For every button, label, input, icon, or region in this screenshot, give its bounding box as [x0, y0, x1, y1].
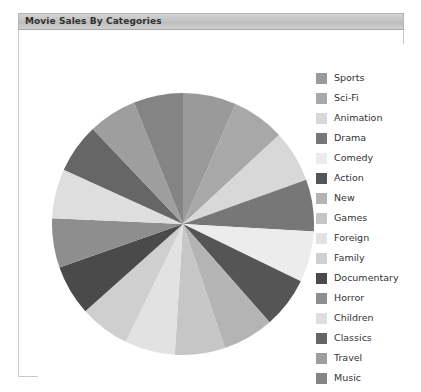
legend-item-label: Drama	[334, 133, 366, 143]
legend-item-label: Classics	[334, 333, 372, 343]
legend-item-label: Animation	[334, 113, 382, 123]
legend-item[interactable]: Sci-Fi	[316, 88, 421, 108]
legend-item-label: Travel	[334, 353, 362, 363]
legend-swatch-icon	[316, 73, 327, 84]
legend-item-label: Games	[334, 213, 367, 223]
legend-item[interactable]: Music	[316, 368, 421, 388]
legend-item-label: Family	[334, 253, 365, 263]
legend-swatch-icon	[316, 273, 327, 284]
legend-item[interactable]: Classics	[316, 328, 421, 348]
pie-chart-svg	[52, 88, 314, 360]
plot-area: SportsSci-FiAnimationDramaComedyActionNe…	[38, 44, 421, 389]
legend-item-label: Comedy	[334, 153, 373, 163]
legend-swatch-icon	[316, 233, 327, 244]
legend-item-label: Sports	[334, 73, 364, 83]
legend-swatch-icon	[316, 333, 327, 344]
legend-item[interactable]: Comedy	[316, 148, 421, 168]
legend-swatch-icon	[316, 193, 327, 204]
legend-item[interactable]: Children	[316, 308, 421, 328]
legend-swatch-icon	[316, 133, 327, 144]
legend-item[interactable]: New	[316, 188, 421, 208]
legend-swatch-icon	[316, 293, 327, 304]
legend-swatch-icon	[316, 153, 327, 164]
pie-chart	[52, 88, 314, 360]
legend-item[interactable]: Travel	[316, 348, 421, 368]
chart-panel: SportsSci-FiAnimationDramaComedyActionNe…	[18, 13, 404, 377]
legend-item-label: Horror	[334, 293, 364, 303]
legend-swatch-icon	[316, 313, 327, 324]
legend-swatch-icon	[316, 93, 327, 104]
chart-legend: SportsSci-FiAnimationDramaComedyActionNe…	[316, 68, 421, 388]
legend-item-label: New	[334, 193, 355, 203]
legend-swatch-icon	[316, 113, 327, 124]
legend-swatch-icon	[316, 253, 327, 264]
legend-item[interactable]: Family	[316, 248, 421, 268]
legend-item[interactable]: Documentary	[316, 268, 421, 288]
legend-item-label: Documentary	[334, 273, 399, 283]
legend-item-label: Music	[334, 373, 361, 383]
legend-item-label: Sci-Fi	[334, 93, 359, 103]
legend-item[interactable]: Sports	[316, 68, 421, 88]
legend-swatch-icon	[316, 213, 327, 224]
legend-item[interactable]: Drama	[316, 128, 421, 148]
legend-item[interactable]: Foreign	[316, 228, 421, 248]
legend-swatch-icon	[316, 373, 327, 384]
legend-item[interactable]: Games	[316, 208, 421, 228]
legend-item-label: Children	[334, 313, 374, 323]
page-title: Movie Sales By Categories	[19, 17, 162, 26]
legend-item[interactable]: Action	[316, 168, 421, 188]
legend-item[interactable]: Animation	[316, 108, 421, 128]
legend-item[interactable]: Horror	[316, 288, 421, 308]
legend-swatch-icon	[316, 353, 327, 364]
legend-swatch-icon	[316, 173, 327, 184]
panel-titlebar[interactable]: Movie Sales By Categories	[18, 13, 404, 30]
screenshot-root: SportsSci-FiAnimationDramaComedyActionNe…	[0, 0, 421, 392]
legend-item-label: Foreign	[334, 233, 369, 243]
legend-item-label: Action	[334, 173, 364, 183]
